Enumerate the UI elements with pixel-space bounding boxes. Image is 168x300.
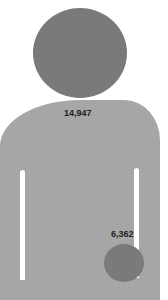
total-value-label: 14,947 — [64, 108, 92, 118]
person-head — [33, 8, 127, 98]
subset-value-label: 6,362 — [111, 229, 134, 239]
subset-circle — [104, 244, 144, 282]
left-arm-gap — [20, 170, 25, 280]
